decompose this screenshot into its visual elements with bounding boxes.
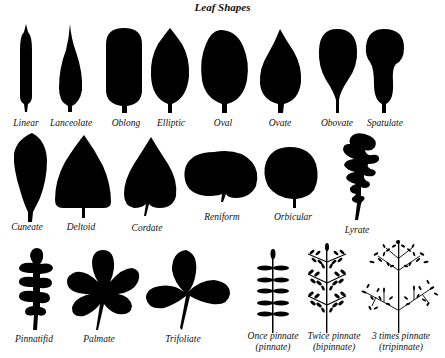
label-twice-pinnate-subname: (bipinnate): [308, 342, 361, 353]
obovate-leaf-icon: [319, 29, 357, 113]
label-spatulate: Spatulate: [367, 118, 403, 129]
label-oblong: Oblong: [112, 118, 141, 129]
spatulate-leaf-icon: [366, 29, 404, 113]
pinnatifid-leaf-icon: [19, 248, 53, 330]
leaf-shapes-illustration: [0, 0, 445, 358]
palmate-leaf-icon: [67, 250, 139, 330]
lyrate-leaf-icon: [343, 133, 379, 220]
label-oval: Oval: [214, 118, 232, 129]
elliptic-leaf-icon: [151, 28, 189, 113]
cuneate-leaf-icon: [14, 133, 47, 222]
label-cuneate: Cuneate: [11, 222, 43, 233]
label-lanceolate: Lanceolate: [50, 118, 92, 129]
label-linear: Linear: [13, 118, 38, 129]
label-deltoid: Deltoid: [67, 222, 96, 233]
cordate-leaf-icon: [124, 137, 176, 216]
trifoliate-leaf-icon: [146, 250, 230, 330]
label-ovate: Ovate: [269, 118, 292, 129]
label-tripinnate-subname: (tripinnate): [372, 342, 430, 353]
label-lyrate: Lyrate: [345, 225, 370, 236]
label-pinnatifid: Pinnatifid: [15, 334, 53, 345]
oblong-leaf-icon: [106, 28, 142, 113]
label-tripinnate-name: 3 times pinnate: [372, 331, 430, 342]
label-twice-pinnate-name: Twice pinnate: [308, 331, 361, 342]
label-once-pinnate: Once pinnate (pinnate): [248, 331, 299, 353]
label-palmate: Palmate: [83, 334, 115, 345]
label-once-pinnate-subname: (pinnate): [248, 342, 299, 353]
oval-leaf-icon: [201, 30, 248, 113]
label-twice-pinnate: Twice pinnate (bipinnate): [308, 331, 361, 353]
once-pinnate-leaf-icon: [257, 249, 289, 333]
label-once-pinnate-name: Once pinnate: [248, 331, 299, 342]
label-tripinnate: 3 times pinnate (tripinnate): [372, 331, 430, 353]
label-trifoliate: Trifoliate: [165, 334, 200, 345]
linear-leaf-icon: [20, 24, 32, 112]
twice-pinnate-leaf-icon: [308, 243, 347, 333]
lanceolate-leaf-icon: [59, 24, 82, 112]
label-reniform: Reniform: [204, 212, 239, 223]
label-cordate: Cordate: [132, 223, 163, 234]
label-elliptic: Elliptic: [157, 118, 185, 129]
reniform-leaf-icon: [184, 151, 257, 202]
tripinnate-leaf-icon: [361, 240, 438, 333]
ovate-leaf-icon: [260, 29, 301, 113]
orbicular-leaf-icon: [264, 147, 317, 208]
deltoid-leaf-icon: [55, 135, 111, 218]
label-orbicular: Orbicular: [274, 212, 312, 223]
label-obovate: Obovate: [321, 118, 353, 129]
